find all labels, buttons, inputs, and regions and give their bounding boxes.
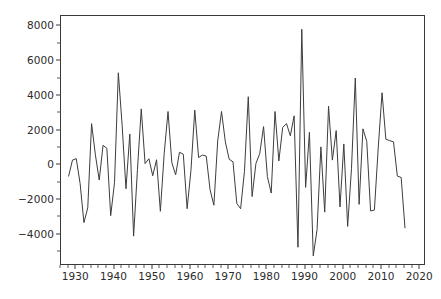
x-tick-minor-mark — [205, 265, 206, 268]
y-tick-minor-mark — [57, 42, 60, 43]
x-tick-label: 2000 — [329, 270, 356, 282]
y-axis-tick-labels: −4000−200002000400060008000 — [0, 0, 54, 299]
x-tick-minor-mark — [128, 265, 129, 268]
x-tick-mark — [381, 265, 382, 269]
x-tick-minor-mark — [144, 265, 145, 268]
x-tick-minor-mark — [396, 265, 397, 268]
y-tick-mark — [56, 233, 60, 234]
x-tick-mark — [151, 265, 152, 269]
y-tick-label: 0 — [47, 158, 54, 170]
x-tick-minor-mark — [197, 265, 198, 268]
x-tick-label: 1930 — [62, 270, 89, 282]
x-tick-minor-mark — [327, 265, 328, 268]
x-tick-minor-mark — [403, 265, 404, 268]
x-tick-minor-mark — [296, 265, 297, 268]
y-tick-minor-mark — [57, 112, 60, 113]
x-tick-minor-mark — [289, 265, 290, 268]
x-tick-minor-mark — [251, 265, 252, 268]
x-tick-minor-mark — [243, 265, 244, 268]
x-tick-label: 1970 — [215, 270, 242, 282]
y-tick-mark — [56, 94, 60, 95]
y-tick-mark — [56, 25, 60, 26]
x-tick-minor-mark — [167, 265, 168, 268]
x-tick-mark — [189, 265, 190, 269]
x-tick-mark — [75, 265, 76, 269]
x-tick-minor-mark — [105, 265, 106, 268]
x-tick-minor-mark — [121, 265, 122, 268]
x-tick-minor-mark — [159, 265, 160, 268]
y-tick-mark — [56, 199, 60, 200]
y-tick-minor-mark — [57, 146, 60, 147]
x-tick-minor-mark — [365, 265, 366, 268]
x-tick-minor-mark — [182, 265, 183, 268]
y-tick-minor-mark — [57, 181, 60, 182]
x-tick-mark — [266, 265, 267, 269]
x-tick-minor-mark — [136, 265, 137, 268]
x-tick-minor-mark — [274, 265, 275, 268]
y-tick-mark — [56, 60, 60, 61]
y-tick-label: −2000 — [18, 193, 54, 205]
data-line-plot — [61, 16, 426, 266]
x-tick-minor-mark — [67, 265, 68, 268]
x-tick-mark — [228, 265, 229, 269]
x-tick-minor-mark — [281, 265, 282, 268]
x-tick-minor-mark — [60, 265, 61, 268]
y-tick-minor-mark — [57, 77, 60, 78]
x-tick-mark — [304, 265, 305, 269]
y-tick-label: 4000 — [27, 89, 54, 101]
x-tick-minor-mark — [235, 265, 236, 268]
x-tick-label: 1990 — [291, 270, 318, 282]
x-tick-minor-mark — [174, 265, 175, 268]
y-tick-mark — [56, 164, 60, 165]
y-tick-mark — [56, 129, 60, 130]
x-tick-minor-mark — [220, 265, 221, 268]
x-tick-minor-mark — [90, 265, 91, 268]
x-tick-minor-mark — [319, 265, 320, 268]
x-tick-minor-mark — [350, 265, 351, 268]
y-tick-label: 2000 — [27, 124, 54, 136]
plot-axes-frame — [60, 15, 425, 265]
x-tick-minor-mark — [358, 265, 359, 268]
series-1-polyline — [69, 29, 405, 256]
x-tick-label: 2010 — [367, 270, 394, 282]
x-tick-mark — [419, 265, 420, 269]
x-tick-label: 2020 — [406, 270, 433, 282]
x-tick-label: 1950 — [138, 270, 165, 282]
x-tick-mark — [342, 265, 343, 269]
y-tick-minor-mark — [57, 216, 60, 217]
x-tick-minor-mark — [411, 265, 412, 268]
x-tick-mark — [113, 265, 114, 269]
x-tick-minor-mark — [335, 265, 336, 268]
x-tick-minor-mark — [82, 265, 83, 268]
x-tick-label: 1960 — [176, 270, 203, 282]
x-tick-minor-mark — [98, 265, 99, 268]
x-tick-minor-mark — [258, 265, 259, 268]
y-tick-label: 6000 — [27, 54, 54, 66]
x-tick-label: 1940 — [100, 270, 127, 282]
y-tick-minor-mark — [57, 251, 60, 252]
x-tick-minor-mark — [312, 265, 313, 268]
y-tick-label: 8000 — [27, 19, 54, 31]
figure-canvas: −4000−200002000400060008000 193019401950… — [0, 0, 441, 299]
x-tick-minor-mark — [212, 265, 213, 268]
x-tick-minor-mark — [373, 265, 374, 268]
x-tick-minor-mark — [388, 265, 389, 268]
x-tick-label: 1980 — [253, 270, 280, 282]
y-tick-label: −4000 — [18, 228, 54, 240]
